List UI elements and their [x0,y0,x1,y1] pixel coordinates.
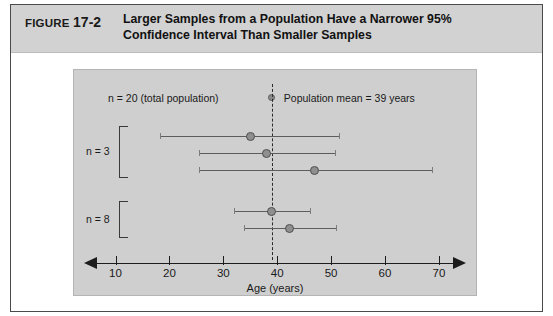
confidence-interval-row [74,164,476,176]
figure-number: 17-2 [73,14,101,30]
confidence-interval-endpoint [244,225,245,231]
chart-plot-area: n = 20 (total population) Population mea… [73,69,477,296]
x-axis-tick [277,256,278,265]
x-axis-tick [385,256,386,265]
sample-mean-marker [267,207,276,216]
x-axis-tick-label: 70 [419,267,459,279]
x-axis-tick-label: 50 [311,267,351,279]
x-axis-tick-label: 40 [257,267,297,279]
x-axis-tick [439,256,440,265]
confidence-interval-endpoint [335,150,336,156]
confidence-interval-endpoint [432,167,433,173]
sample-mean-marker [262,149,271,158]
x-axis-title: Age (years) [74,282,476,294]
x-axis-tick-label: 10 [96,267,136,279]
population-size-label: n = 20 (total population) [108,92,219,104]
figure-title-line1: Larger Samples from a Population Have a … [123,12,452,26]
figure-caption-bar: FIGURE 17-2 Larger Samples from a Popula… [11,5,542,53]
confidence-interval-endpoint [160,133,161,139]
x-axis-tick [223,256,224,265]
x-axis-tick [116,256,117,265]
confidence-interval-endpoint [339,133,340,139]
x-axis-tick-label: 30 [203,267,243,279]
confidence-interval-row [74,147,476,159]
figure-label-text: FIGURE [25,17,70,29]
figure-title: Larger Samples from a Population Have a … [123,12,528,43]
confidence-interval-endpoint [234,208,235,214]
x-axis-tick [169,256,170,265]
x-axis-tick-label: 20 [149,267,189,279]
x-axis-tick-label: 60 [365,267,405,279]
confidence-interval-row [74,222,476,234]
confidence-interval-endpoint [310,208,311,214]
x-axis-tick [331,256,332,265]
figure-container: FIGURE 17-2 Larger Samples from a Popula… [10,4,543,312]
confidence-interval-row [74,130,476,142]
figure-title-line2: Confidence Interval Than Smaller Samples [123,28,528,44]
confidence-interval-endpoint [199,167,200,173]
confidence-interval-endpoint [199,150,200,156]
confidence-interval-endpoint [336,225,337,231]
x-axis-line [96,263,462,264]
sample-mean-marker [285,224,294,233]
sample-mean-marker [310,166,319,175]
confidence-interval-row [74,205,476,217]
legend-population-mean: Population mean = 39 years [284,92,415,104]
figure-label: FIGURE 17-2 [25,14,101,30]
sample-mean-marker [246,132,255,141]
